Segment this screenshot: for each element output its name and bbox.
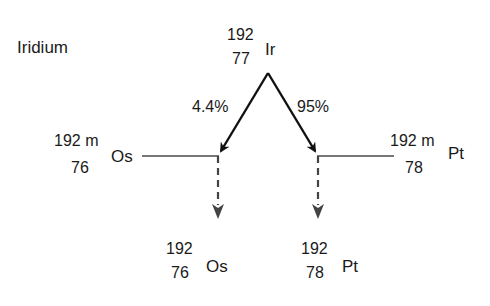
pt-m-symbol: Pt [448, 145, 464, 162]
branch-percent-right: 95% [297, 99, 329, 115]
os-m-mass-number: 192 m [54, 133, 98, 149]
dashed-arrow-os [212, 156, 224, 219]
decay-scheme-graphic [0, 0, 490, 306]
pt-product-symbol: Pt [342, 258, 358, 275]
pt-product-mass-number: 192 [301, 241, 328, 257]
pt-m-atomic-number: 78 [405, 160, 423, 176]
parent-mass-number: 192 [227, 27, 254, 43]
os-m-symbol: Os [111, 148, 133, 165]
element-title: Iridium [17, 39, 68, 56]
branch-percent-left: 4.4% [192, 99, 228, 115]
parent-atomic-number: 77 [232, 51, 250, 67]
os-product-symbol: Os [206, 258, 228, 275]
pt-product-atomic-number: 78 [306, 265, 324, 281]
os-product-atomic-number: 76 [171, 265, 189, 281]
os-product-mass-number: 192 [166, 241, 193, 257]
dashed-arrow-pt [312, 156, 324, 219]
os-m-atomic-number: 76 [71, 160, 89, 176]
parent-symbol: Ir [265, 41, 275, 58]
pt-m-mass-number: 192 m [390, 133, 434, 149]
